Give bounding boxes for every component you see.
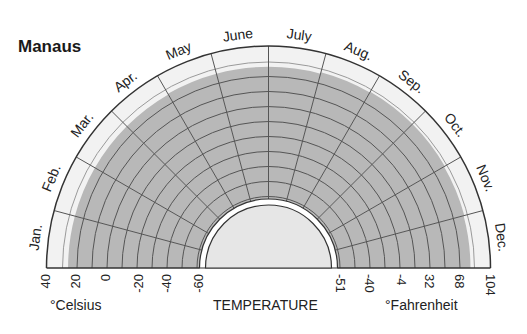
celsius-tick-label: -40	[159, 274, 174, 293]
month-label: Nov.	[473, 162, 498, 194]
plot-area	[47, 46, 491, 268]
fahrenheit-tick-label: 68	[452, 274, 467, 288]
fahrenheit-tick-label: 32	[422, 274, 437, 288]
month-label: Feb.	[38, 162, 64, 194]
month-label: May	[163, 38, 194, 63]
fahrenheit-tick-label: -4	[394, 274, 409, 286]
fahrenheit-ticks: -51-40-43268104	[333, 274, 498, 296]
fahrenheit-axis-label: °Fahrenheit	[385, 297, 458, 313]
month-label: July	[286, 25, 313, 44]
celsius-axis-label: °Celsius	[50, 297, 102, 313]
month-label: Jan.	[26, 223, 45, 251]
month-label: Dec.	[492, 222, 512, 253]
celsius-tick-label: 40	[38, 274, 53, 288]
month-label: June	[222, 25, 254, 45]
celsius-tick-label: -20	[131, 274, 146, 293]
temperature-radial-chart: Manaus Jan.Feb.Mar.Apr.MayJuneJulyAug.Se…	[0, 0, 527, 334]
celsius-tick-label: -60	[191, 274, 206, 293]
fahrenheit-tick-label: -51	[333, 274, 348, 293]
fahrenheit-tick-label: 104	[483, 274, 498, 296]
celsius-tick-label: 0	[98, 274, 113, 281]
celsius-tick-label: 20	[68, 274, 83, 288]
celsius-ticks: 40200-20-40-60	[38, 274, 206, 293]
fahrenheit-tick-label: -40	[362, 274, 377, 293]
temperature-axis-label: TEMPERATURE	[213, 297, 318, 313]
chart-title: Manaus	[18, 37, 81, 56]
